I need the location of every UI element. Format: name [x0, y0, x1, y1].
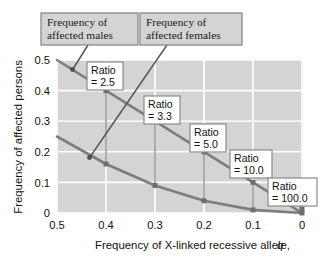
ratio-label-3-3[interactable]: Ratio = 3.3 — [144, 96, 180, 124]
callout-females-line1: Frequency of — [146, 16, 207, 28]
ytick-label-0.3: 0.3 — [34, 115, 50, 127]
xtick-label-0.2: 0.2 — [196, 219, 212, 231]
callout-males-line1: Frequency of — [47, 16, 108, 28]
xtick-label-0.1: 0.1 — [245, 219, 261, 231]
xlinked-frequency-chart: Frequency of affected males Frequency of… — [0, 0, 328, 268]
x-axis-tick-labels: 0.5 0.4 0.3 0.2 0.1 0 — [49, 219, 305, 231]
xtick-label-0.5: 0.5 — [49, 219, 65, 231]
chart-canvas: Frequency of affected males Frequency of… — [0, 0, 328, 268]
ratio-100-0-line1: Ratio — [272, 180, 297, 192]
y-axis-tick-labels: 0 0.1 0.2 0.3 0.4 0.5 — [34, 54, 50, 219]
ytick-label-0.5: 0.5 — [34, 54, 50, 66]
callout-females-line2: affected females — [146, 29, 221, 41]
ratio-2-5-line1: Ratio — [91, 64, 116, 76]
callout-males-line2: affected males — [47, 29, 113, 41]
callout-affected-females[interactable]: Frequency of affected females — [140, 13, 242, 45]
ytick-label-0.1: 0.1 — [34, 177, 50, 189]
ytick-label-0: 0 — [44, 207, 50, 219]
data-point-males-0.1 — [251, 180, 256, 185]
ratio-100-0-line2: = 100.0 — [272, 192, 308, 204]
x-axis-title-symbol: q — [277, 239, 284, 251]
xtick-label-0.4: 0.4 — [98, 219, 114, 231]
xtick-label-0.3: 0.3 — [147, 219, 163, 231]
ratio-2-5-line2: = 2.5 — [91, 76, 115, 88]
ytick-label-0.2: 0.2 — [34, 146, 50, 158]
data-point-females-0.3 — [153, 183, 158, 188]
ytick-label-0.4: 0.4 — [34, 85, 50, 97]
ratio-label-10-0[interactable]: Ratio = 10.0 — [230, 150, 272, 178]
ratio-10-0-line2: = 10.0 — [234, 164, 264, 176]
data-point-females-0.2 — [202, 198, 207, 203]
ratio-label-2-5[interactable]: Ratio = 2.5 — [87, 62, 123, 90]
ratio-3-3-line1: Ratio — [148, 98, 173, 110]
callout-anchor-females — [87, 155, 92, 160]
data-point-females-0 — [300, 211, 305, 216]
xtick-label-0: 0 — [299, 219, 305, 231]
data-point-females-0.1 — [251, 207, 256, 212]
ratio-5-0-line2: = 5.0 — [194, 138, 218, 150]
ratio-10-0-line1: Ratio — [234, 152, 259, 164]
ratio-3-3-line2: = 3.3 — [148, 110, 172, 122]
callout-anchor-males — [70, 67, 75, 72]
callout-affected-males[interactable]: Frequency of affected males — [41, 13, 138, 45]
ratio-label-5-0[interactable]: Ratio = 5.0 — [190, 124, 226, 152]
y-axis-title: Frequency of affected persons — [12, 60, 24, 214]
x-axis-title: Frequency of X-linked recessive allele, — [95, 239, 290, 251]
ratio-label-100-0[interactable]: Ratio = 100.0 — [268, 178, 317, 206]
ratio-5-0-line1: Ratio — [194, 126, 219, 138]
data-point-females-0.4 — [104, 162, 109, 167]
